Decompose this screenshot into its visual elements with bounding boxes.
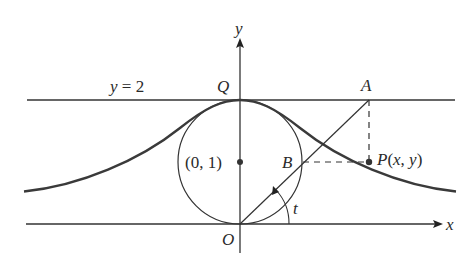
line-label: y = 2 (108, 77, 144, 96)
label-O: O (222, 230, 234, 249)
label-P: P(x, y) (376, 150, 422, 169)
label-Q: Q (217, 77, 229, 96)
point-P (366, 159, 372, 165)
y-axis-label: y (233, 19, 243, 38)
label-A: A (360, 76, 372, 95)
label-B: B (282, 153, 293, 172)
witch-of-agnesi-diagram: y x y = 2 Q A B O P(x, y) (0, 1) t (0, 0, 468, 269)
label-center: (0, 1) (185, 153, 222, 172)
center-point (237, 159, 243, 165)
label-angle-t: t (293, 199, 299, 218)
x-axis-label: x (445, 215, 454, 234)
